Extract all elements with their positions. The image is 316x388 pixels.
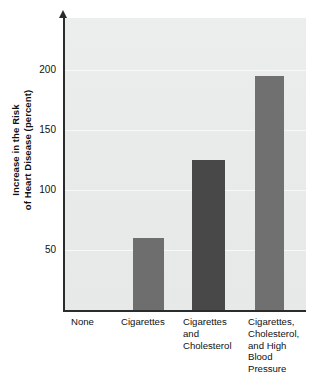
x-label-cigarettes-and-cholesterol: Cigarettes and Cholesterol [183, 316, 247, 351]
bar-cigarettes [133, 238, 164, 310]
x-label-none: None [71, 316, 123, 328]
bar-cigarettes-cholesterol-high-blood-pressure [255, 76, 284, 310]
y-tick-label-150: 150 [26, 125, 56, 135]
y-tick-label-100: 100 [26, 185, 56, 195]
x-label-cigarettes-cholesterol-high-blood-pressure: Cigarettes, Cholesterol, and High Blood … [248, 316, 314, 375]
gridline-200 [65, 70, 306, 71]
x-label-cigarettes: Cigarettes [121, 316, 183, 328]
x-axis-category-labels: None Cigarettes Cigarettes and Cholester… [63, 316, 304, 388]
y-tick-label-50: 50 [26, 245, 56, 255]
bar-chart-figure: Increase in the Risk of Heart Disease (p… [0, 0, 316, 388]
plot-area [63, 18, 306, 312]
bar-cigarettes-and-cholesterol [192, 160, 225, 310]
y-tick-label-200: 200 [26, 65, 56, 75]
y-axis-tick-labels: 200 150 100 50 [26, 0, 56, 388]
y-axis-arrow-icon [59, 10, 67, 18]
